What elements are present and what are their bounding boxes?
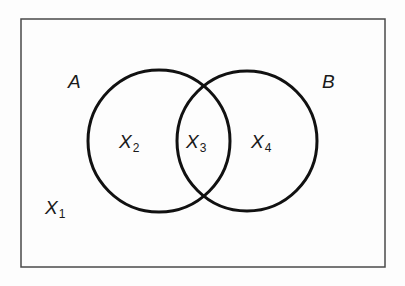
region-label-x3: X3	[186, 132, 205, 151]
region-x1-base: X	[45, 197, 58, 218]
region-x1-subscript: 1	[59, 207, 66, 221]
region-label-x4: X4	[251, 132, 270, 151]
region-x2-subscript: 2	[133, 141, 140, 155]
region-label-x1: X1	[45, 198, 64, 217]
circle-set-a	[88, 70, 230, 212]
region-label-x2: X2	[119, 132, 138, 151]
region-x4-base: X	[251, 131, 264, 152]
region-x3-base: X	[186, 131, 199, 152]
set-label-a: A	[68, 72, 81, 91]
region-x4-subscript: 4	[265, 141, 272, 155]
region-x2-base: X	[119, 131, 132, 152]
region-x3-subscript: 3	[200, 141, 207, 155]
set-label-b: B	[322, 72, 335, 91]
venn-diagram-figure: A B X1 X2 X3 X4	[0, 0, 405, 286]
